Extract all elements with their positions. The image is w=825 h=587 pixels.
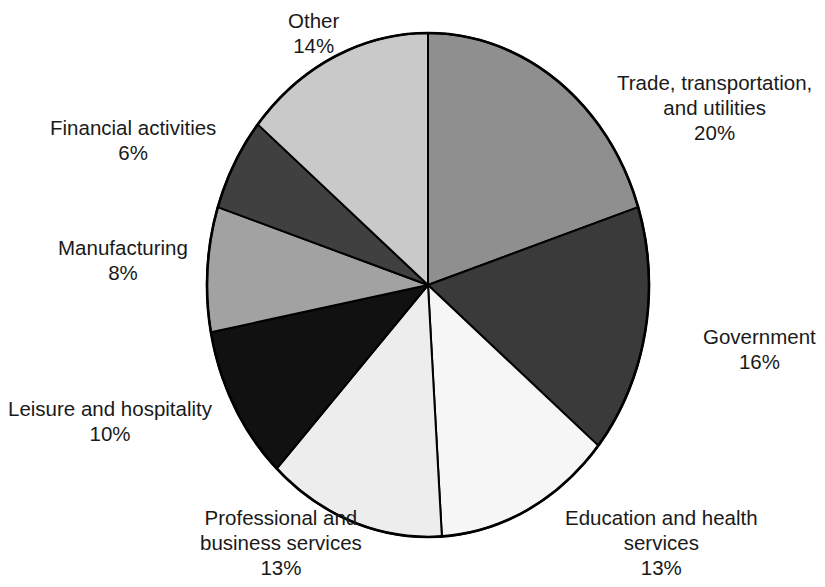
slice-label-education-and-health-services: Education and health services 13% xyxy=(565,505,758,580)
slice-label-line: Government xyxy=(703,324,816,349)
slice-label-manufacturing: Manufacturing 8% xyxy=(58,235,188,285)
slice-label-line: Trade, transportation, xyxy=(617,70,812,95)
slice-label-line: Leisure and hospitality xyxy=(8,396,212,421)
slice-label-financial-activities: Financial activities 6% xyxy=(50,115,216,165)
slice-percent: 14% xyxy=(288,33,339,58)
pie-chart-figure: Trade, transportation, and utilities 20%… xyxy=(0,0,825,587)
slice-label-line: and utilities xyxy=(617,95,812,120)
slice-label-government: Government 16% xyxy=(703,324,816,374)
slice-percent: 8% xyxy=(58,260,188,285)
pie-slice-group xyxy=(207,33,649,537)
slice-label-line: Manufacturing xyxy=(58,235,188,260)
slice-percent: 13% xyxy=(565,555,758,580)
slice-percent: 16% xyxy=(703,349,816,374)
slice-label-line: Professional and xyxy=(200,505,362,530)
slice-percent: 6% xyxy=(50,140,216,165)
slice-percent: 20% xyxy=(617,120,812,145)
slice-label-professional-and-business-services: Professional and business services 13% xyxy=(200,505,362,580)
slice-percent: 13% xyxy=(200,555,362,580)
slice-label-leisure-and-hospitality: Leisure and hospitality 10% xyxy=(8,396,212,446)
slice-label-line: Financial activities xyxy=(50,115,216,140)
slice-percent: 10% xyxy=(8,421,212,446)
slice-label-other: Other 14% xyxy=(288,8,339,58)
slice-label-line: services xyxy=(565,530,758,555)
slice-label-line: Education and health xyxy=(565,505,758,530)
slice-label-trade-transportation-utilities: Trade, transportation, and utilities 20% xyxy=(617,70,812,145)
slice-label-line: business services xyxy=(200,530,362,555)
slice-label-line: Other xyxy=(288,8,339,33)
